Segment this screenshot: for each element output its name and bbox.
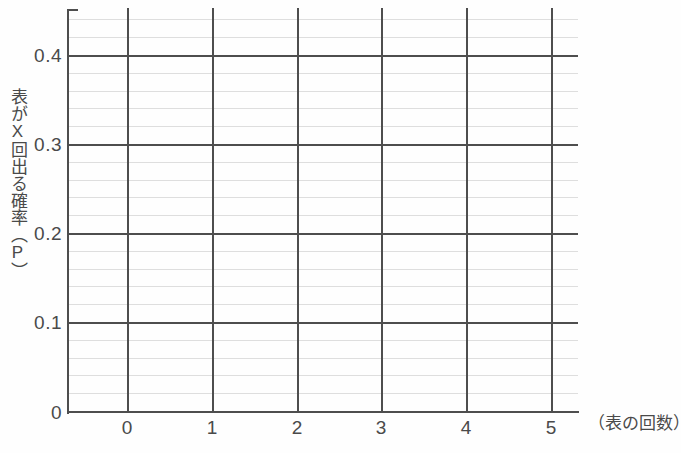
minor-gridline xyxy=(68,358,578,359)
major-gridline-0-3 xyxy=(68,144,578,146)
major-gridline-0-1 xyxy=(68,322,578,324)
minor-gridline xyxy=(68,375,578,376)
y-axis-top-tick xyxy=(67,9,78,11)
minor-gridline xyxy=(68,19,578,20)
vertical-gridline-1 xyxy=(212,8,214,412)
minor-gridline xyxy=(68,126,578,127)
x-tick-label-2: 2 xyxy=(277,418,317,437)
plot-area xyxy=(68,8,578,412)
minor-gridline xyxy=(68,304,578,305)
minor-gridline xyxy=(68,91,578,92)
y-axis-title: 表がX回出る確率（P） xyxy=(4,88,28,279)
minor-gridline xyxy=(68,162,578,163)
minor-gridline xyxy=(68,286,578,287)
probability-graph-figure: 0.4 0.3 0.2 0.1 0 0 1 2 3 4 5 表がX回出る確率（P… xyxy=(0,0,681,453)
x-tick-label-0: 0 xyxy=(107,418,147,437)
minor-gridline xyxy=(68,251,578,252)
page-edge-artifact xyxy=(300,449,681,453)
minor-gridline xyxy=(68,197,578,198)
minor-gridline xyxy=(68,73,578,74)
minor-gridline xyxy=(68,180,578,181)
minor-gridline xyxy=(68,393,578,394)
x-axis-line xyxy=(67,411,579,413)
x-tick-label-4: 4 xyxy=(446,418,486,437)
vertical-gridline-3 xyxy=(381,8,383,412)
major-gridline-0-4 xyxy=(68,55,578,57)
y-axis-line xyxy=(67,10,69,414)
vertical-gridline-4 xyxy=(466,8,468,412)
minor-gridline xyxy=(68,108,578,109)
vertical-gridline-5 xyxy=(551,8,553,412)
vertical-gridline-2 xyxy=(297,8,299,412)
minor-gridline xyxy=(68,215,578,216)
minor-gridline xyxy=(68,37,578,38)
vertical-gridline-0 xyxy=(127,8,129,412)
y-tick-label-0: 0 xyxy=(16,403,62,422)
minor-gridline xyxy=(68,269,578,270)
major-gridline-0-2 xyxy=(68,233,578,235)
y-tick-label-0-1: 0.1 xyxy=(16,313,62,332)
x-tick-label-3: 3 xyxy=(361,418,401,437)
x-axis-title: （表の回数） xyxy=(588,414,681,434)
x-tick-label-1: 1 xyxy=(192,418,232,437)
y-tick-label-0-4: 0.4 xyxy=(16,46,62,65)
minor-gridline xyxy=(68,340,578,341)
x-tick-label-5: 5 xyxy=(531,418,571,437)
